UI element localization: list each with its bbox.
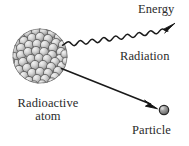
radiation-arrowhead	[164, 23, 176, 33]
label-particle: Particle	[132, 124, 171, 137]
radioactive-decay-diagram: Energy Radiation Particle Radioactiveato…	[0, 0, 189, 146]
particle-arrowhead	[145, 100, 158, 109]
label-energy: Energy	[138, 3, 174, 16]
label-radioactive-atom-line2: atom	[8, 110, 88, 123]
nucleus-sphere-cluster	[7, 23, 70, 89]
label-radioactive-atom-line1: Radioactive	[18, 96, 79, 110]
emitted-particle-sphere	[159, 105, 168, 114]
label-radiation: Radiation	[120, 50, 170, 63]
label-radioactive-atom: Radioactiveatom	[8, 97, 88, 123]
radiation-wave-arrow	[63, 23, 176, 45]
